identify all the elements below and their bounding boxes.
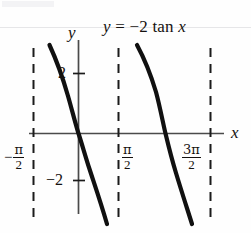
x-axis-label: x bbox=[231, 124, 239, 141]
fraction-negative-half-pi: π2 bbox=[13, 143, 24, 172]
y-tick-label-2: 2 bbox=[58, 65, 66, 81]
fraction-numerator: π bbox=[122, 143, 133, 158]
equation-label: y = −2 tan x bbox=[103, 18, 186, 35]
fraction-denominator: 2 bbox=[13, 158, 24, 172]
equation-coefficient: −2 bbox=[129, 17, 148, 36]
fraction-three-half-pi: 3π2 bbox=[182, 143, 201, 172]
fraction-numerator: π bbox=[13, 143, 24, 158]
x-tick-label-half-pi: π2 bbox=[122, 143, 133, 172]
curve-branch-2 bbox=[137, 45, 192, 224]
equation-lhs: y bbox=[103, 17, 111, 36]
equation-variable: x bbox=[178, 17, 186, 36]
y-tick-label-minus-2: −2 bbox=[46, 172, 63, 188]
x-tick-negative-sign: − bbox=[4, 150, 13, 165]
y-axis-label: y bbox=[68, 24, 76, 41]
equation-function-name: tan bbox=[148, 17, 178, 36]
fraction-denominator: 2 bbox=[122, 158, 133, 172]
tangent-graph-figure: y = −2 tan x y x 2 −2 −π2 π2 3π2 bbox=[0, 0, 251, 233]
fraction-half-pi: π2 bbox=[122, 143, 133, 172]
x-tick-label-three-half-pi: 3π2 bbox=[182, 143, 201, 172]
fraction-numerator: 3π bbox=[182, 143, 201, 158]
x-tick-label-negative-half-pi: −π2 bbox=[4, 143, 24, 172]
equation-equals: = bbox=[111, 17, 130, 36]
fraction-denominator: 2 bbox=[182, 158, 201, 172]
